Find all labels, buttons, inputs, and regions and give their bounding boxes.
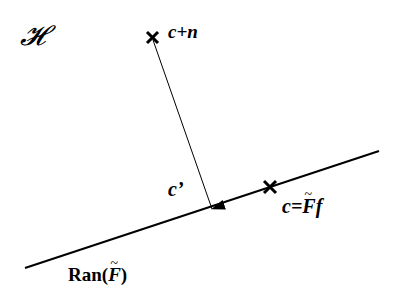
F-tilde-range: F — [108, 265, 121, 284]
cross-marker-line-icon — [264, 181, 276, 193]
ran-prefix: Ran( — [68, 264, 108, 285]
range-line — [25, 151, 379, 268]
range-label: Ran(F) — [68, 265, 127, 284]
arrow-c-prime-label: c’ — [168, 179, 184, 199]
diagram-svg — [0, 0, 400, 302]
c-equals-prefix: c= — [282, 195, 302, 217]
cross-marker-top-icon — [147, 32, 158, 43]
F-tilde: F — [302, 196, 315, 216]
f-suffix: f — [316, 195, 323, 217]
ran-suffix: ) — [121, 264, 127, 285]
point-c-plus-n-label: c+n — [168, 22, 198, 41]
diagram-canvas: 𝓗 c+n c’ c=Ff Ran(F) — [0, 0, 400, 302]
hilbert-space-label: 𝓗 — [20, 22, 45, 50]
point-c-equals-Ff-label: c=Ff — [282, 196, 322, 216]
